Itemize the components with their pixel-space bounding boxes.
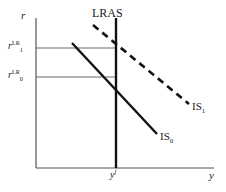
r1-label-sup: LR xyxy=(12,39,20,46)
y-axis-label: r xyxy=(21,10,25,21)
is0-label-base: IS xyxy=(160,130,170,142)
yf-label-sup: f xyxy=(114,168,116,175)
diagram-canvas xyxy=(0,0,226,192)
is0-label-sub: 0 xyxy=(170,137,173,144)
is0-curve-label: IS0 xyxy=(160,131,173,142)
r0-label-sub: 0 xyxy=(20,75,23,82)
is1-label-base: IS xyxy=(192,100,202,112)
lras-curve-label: LRAS xyxy=(92,7,123,19)
r1-label-sub: 1 xyxy=(20,46,23,53)
r0-label-sup: LR xyxy=(12,68,20,75)
economics-diagram: r y LRAS IS1 IS0 rLR1 rLR0 yf xyxy=(0,0,226,192)
y-tick-label-r0: rLR0 xyxy=(8,70,23,80)
is1-curve xyxy=(93,25,189,104)
y-tick-label-r1: rLR1 xyxy=(8,41,23,51)
is0-curve xyxy=(72,43,157,134)
is1-label-sub: 1 xyxy=(202,107,205,114)
x-tick-label-yf: yf xyxy=(110,170,116,180)
x-axis-label: y xyxy=(209,170,214,181)
is1-curve-label: IS1 xyxy=(192,101,205,112)
